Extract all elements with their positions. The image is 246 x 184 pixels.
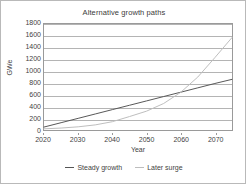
- y-axis-tick-label: 600: [7, 91, 41, 99]
- legend-item[interactable]: Later surge: [135, 164, 182, 171]
- legend-label: Later surge: [147, 164, 182, 171]
- series-line: [44, 79, 232, 127]
- x-axis-tick-mark: [216, 133, 217, 135]
- x-axis-tick-label: 2060: [163, 136, 199, 143]
- x-axis-tick-mark: [78, 133, 79, 135]
- legend-line-icon: [135, 167, 144, 168]
- y-axis-label: GWe: [6, 51, 13, 85]
- legend-item[interactable]: Steady growth: [65, 164, 122, 171]
- y-axis-tick-label: 1800: [7, 19, 41, 27]
- x-axis-tick-labels: 202020302040205020602070: [43, 133, 233, 145]
- plot-area: [43, 23, 233, 131]
- x-axis-tick-label: 2050: [129, 136, 165, 143]
- x-axis-tick-mark: [147, 133, 148, 135]
- x-axis-tick-label: 2020: [25, 136, 61, 143]
- x-axis-label: Year: [43, 146, 233, 153]
- y-axis-tick-label: 1600: [7, 31, 41, 39]
- y-axis-tick-label: 200: [7, 115, 41, 123]
- x-axis-tick-label: 2030: [60, 136, 96, 143]
- x-axis-tick-label: 2040: [94, 136, 130, 143]
- x-axis-tick-mark: [43, 133, 44, 135]
- y-axis-tick-label: 400: [7, 103, 41, 111]
- x-axis-tick-mark: [112, 133, 113, 135]
- legend-label: Steady growth: [77, 164, 122, 171]
- legend-line-icon: [65, 167, 74, 168]
- series-lines: [44, 24, 232, 130]
- chart-legend: Steady growthLater surge: [1, 164, 246, 171]
- x-axis-tick-label: 2070: [198, 136, 234, 143]
- chart-figure: Alternative growth paths 020040060080010…: [0, 0, 246, 184]
- chart-title: Alternative growth paths: [1, 8, 246, 17]
- y-axis-tick-label: 0: [7, 127, 41, 135]
- series-line: [44, 38, 232, 129]
- x-axis-tick-mark: [181, 133, 182, 135]
